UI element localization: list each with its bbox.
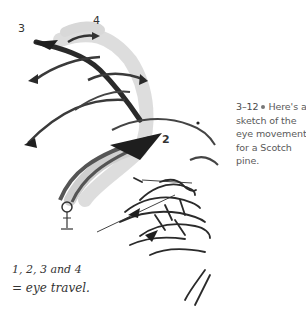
label-point-4: 4 (93, 14, 100, 27)
bullet-icon (261, 105, 265, 109)
label-point-2: 2 (162, 133, 170, 146)
handwritten-note-line1: 1, 2, 3 and 4 (12, 263, 82, 276)
handwritten-note-line2: = eye travel. (12, 281, 90, 295)
label-point-3: 3 (18, 22, 25, 35)
caption-number: 3–12 (236, 101, 258, 112)
figure-caption: 3–12Here's a sketch of the eye movement … (236, 100, 306, 168)
